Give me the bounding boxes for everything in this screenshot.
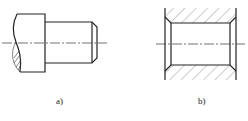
figure-b-label: b) [198,96,206,106]
hatch-bottom [165,65,236,80]
technical-drawing [0,0,248,121]
figure-a-label: a) [56,96,63,106]
figure-a-shaft [2,14,107,72]
break-line-inner [13,42,20,72]
hatch-top [165,8,236,23]
figure-b-bushing [156,8,245,80]
shaft-body-outline [45,22,97,63]
